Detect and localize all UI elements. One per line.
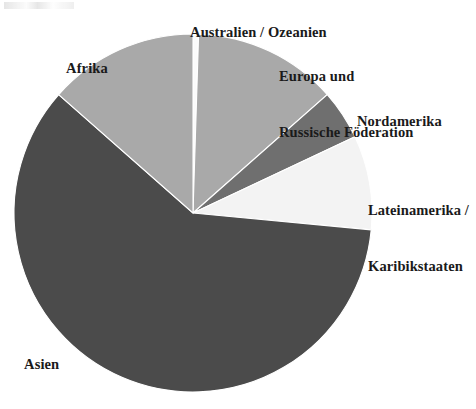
pie-label-lateinamerika-line1: Lateinamerika / (368, 201, 469, 220)
pie-label-europa-line1: Europa und (279, 67, 414, 86)
pie-label-lateinamerika-line2: Karibikstaaten (368, 257, 469, 276)
pie-label-asien-text: Asien (24, 356, 59, 372)
pie-chart-figure: Australien / Ozeanien Europa und Russisc… (0, 0, 476, 409)
pie-label-nordamerika: Nordamerika (342, 93, 442, 149)
pie-label-nordamerika-text: Nordamerika (357, 113, 442, 129)
pie-label-lateinamerika-karibikstaaten: Lateinamerika / Karibikstaaten (368, 164, 469, 312)
pie-label-asien: Asien (10, 336, 59, 392)
pie-label-afrika-text: Afrika (66, 60, 108, 76)
pie-label-afrika: Afrika (52, 40, 108, 96)
